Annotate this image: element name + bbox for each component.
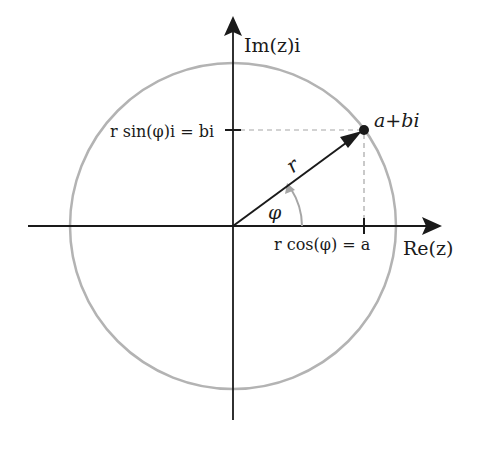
complex-point (359, 125, 369, 135)
point-label: a+bi (374, 109, 420, 131)
radius-label: r (281, 152, 304, 178)
real-axis-label: Re(z) (403, 237, 453, 259)
angle-arc (291, 189, 302, 226)
imag-projection-label: r sin(φ)i = bi (110, 122, 214, 141)
imag-axis-label: Im(z)i (244, 34, 300, 56)
angle-label: φ (268, 201, 282, 223)
real-projection-label: r cos(φ) = a (274, 235, 371, 254)
complex-plane-diagram: Im(z)i Re(z) a+bi r φ r sin(φ)i = bi r c… (0, 0, 483, 450)
radius-vector (233, 140, 350, 226)
